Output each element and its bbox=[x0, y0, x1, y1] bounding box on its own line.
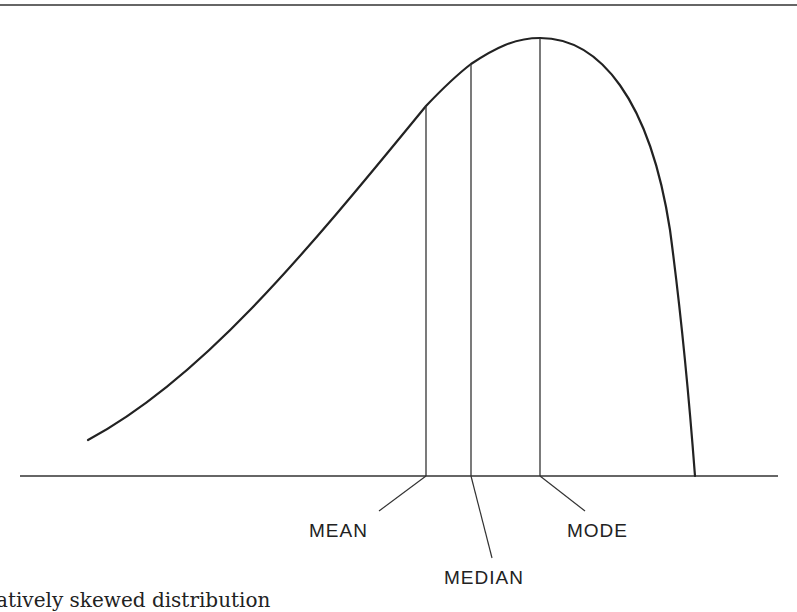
median-label: MEDIAN bbox=[444, 567, 524, 588]
mode-label: MODE bbox=[567, 520, 628, 541]
mean-label: MEAN bbox=[309, 520, 368, 541]
figure-caption: atively skewed distribution bbox=[0, 588, 270, 612]
distribution-curve bbox=[88, 38, 695, 476]
median-leader-line bbox=[471, 476, 492, 558]
mean-leader-line bbox=[379, 476, 426, 511]
negatively-skewed-distribution-diagram: MEAN MEDIAN MODE bbox=[0, 0, 797, 612]
mode-leader-line bbox=[540, 476, 585, 511]
